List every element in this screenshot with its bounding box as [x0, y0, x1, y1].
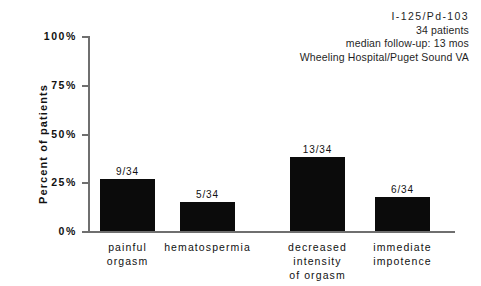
x-axis-line [88, 231, 455, 233]
bar-painful-orgasm[interactable]: 9/34 painfulorgasm [100, 179, 155, 231]
y-tick-mark [82, 134, 89, 136]
y-tick-mark [82, 36, 89, 38]
plot-area: 100% 75% 50% 25% 0% 9/34 painfulorgasm 5… [88, 36, 455, 233]
x-category-label-2: decreasedintensityof orgasm [288, 240, 347, 282]
bar-value-label: 6/34 [391, 184, 414, 195]
annotation-line-isotopes: I-125/Pd-103 [300, 10, 469, 24]
bar-value-label: 13/34 [303, 144, 333, 155]
y-tick-label: 75% [51, 79, 77, 91]
bar-immediate-impotence[interactable]: 6/34 immediateimpotence [375, 197, 430, 231]
bar-decreased-intensity-of-orgasm[interactable]: 13/34 decreasedintensityof orgasm [290, 157, 345, 231]
y-tick-mark [82, 182, 89, 184]
y-tick-label: 25% [51, 176, 77, 188]
bar-hematospermia[interactable]: 5/34 hematospermia [180, 202, 235, 231]
bar-chart: I-125/Pd-103 34 patients median follow-u… [0, 0, 481, 286]
y-tick-mark [82, 85, 89, 87]
annotation-line-patients: 34 patients [300, 24, 469, 38]
y-tick-label: 50% [51, 128, 77, 140]
x-category-label-0: painfulorgasm [107, 240, 149, 268]
x-category-label-1: hematospermia [164, 240, 251, 254]
bar-value-label: 9/34 [116, 166, 139, 177]
y-axis-title: Percent of patients [37, 54, 49, 234]
bar-value-label: 5/34 [196, 189, 219, 200]
y-tick-label: 0% [59, 225, 77, 237]
y-tick-label: 100% [44, 30, 77, 42]
x-category-label-3: immediateimpotence [373, 240, 431, 268]
y-tick-mark [82, 231, 89, 233]
